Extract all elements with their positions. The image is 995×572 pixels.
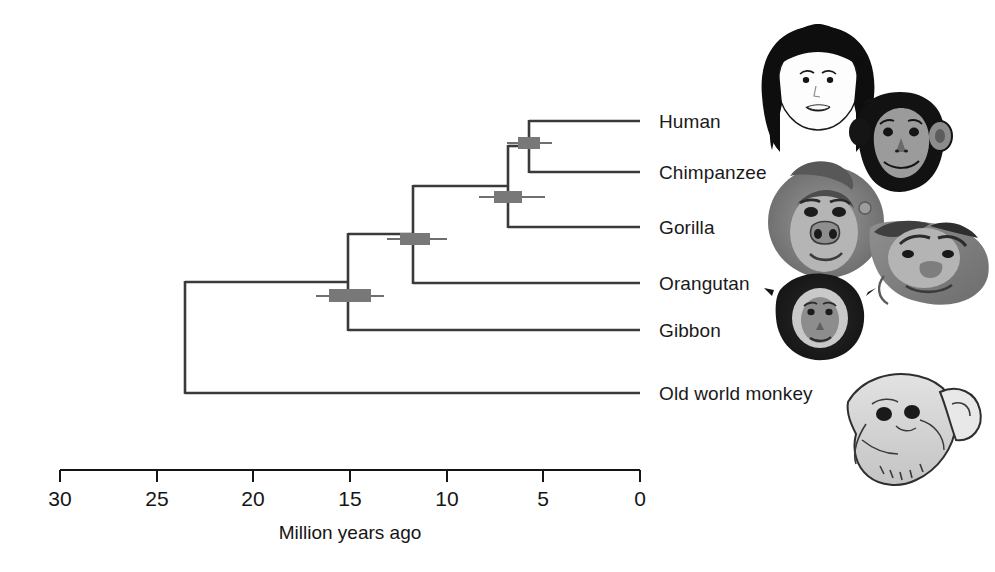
- tip-label-chimpanzee: Chimpanzee: [659, 163, 767, 182]
- axis-tick-label-20: 20: [241, 488, 264, 509]
- axis-title: Million years ago: [279, 523, 422, 542]
- axis-tick-label-0: 0: [634, 488, 646, 509]
- tip-label-gorilla: Gorilla: [659, 218, 715, 237]
- errorbar-gorilla: [479, 191, 545, 203]
- tip-label-old-world-monkey: Old world monkey: [659, 384, 813, 403]
- phylogenetic-tree-figure: Human Chimpanzee Gorilla Orangutan Gibbo…: [0, 0, 995, 572]
- axis-tick-label-25: 25: [145, 488, 168, 509]
- axis-tick-label-30: 30: [48, 488, 71, 509]
- axis-tick-label-5: 5: [537, 488, 549, 509]
- axis-tick-label-10: 10: [435, 488, 458, 509]
- orangutan-portrait: [869, 221, 988, 305]
- time-axis: [60, 470, 640, 482]
- tip-label-orangutan: Orangutan: [659, 274, 750, 293]
- axis-tick-label-15: 15: [338, 488, 361, 509]
- tip-label-gibbon: Gibbon: [659, 321, 721, 340]
- oldworldmonkey-portrait: [848, 374, 981, 485]
- tip-label-human: Human: [659, 112, 721, 131]
- gibbon-portrait: [764, 274, 876, 361]
- errorbar-gibbon: [316, 289, 384, 302]
- divergence-error-bars: [316, 137, 552, 302]
- gorilla-portrait: [768, 161, 884, 278]
- tree-branches: [185, 120, 640, 394]
- chimpanzee-portrait: [849, 92, 952, 192]
